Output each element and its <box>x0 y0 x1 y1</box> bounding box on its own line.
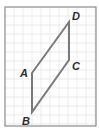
vertex-label-a: A <box>19 67 28 79</box>
vertex-label-d: D <box>72 10 80 22</box>
parallelogram-diagram: A B C D <box>0 0 99 132</box>
grid-lines <box>5 7 96 126</box>
vertex-label-c: C <box>72 60 81 72</box>
vertex-label-b: B <box>22 115 30 127</box>
parallelogram-abcd <box>32 22 69 112</box>
